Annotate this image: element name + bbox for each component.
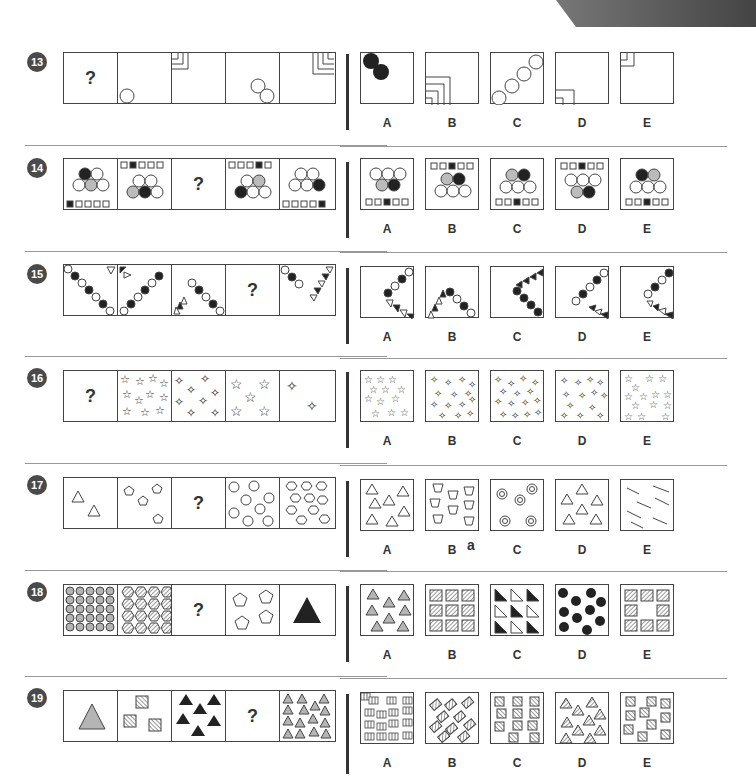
option-label: B [425, 756, 479, 770]
sequence-cell-missing: ? [172, 478, 226, 528]
svg-text:☆: ☆ [258, 403, 271, 419]
divider-line [25, 356, 387, 357]
option-b[interactable]: B [425, 584, 490, 662]
option-d[interactable]: D [555, 692, 620, 770]
option-a[interactable]: A [360, 158, 425, 236]
divider-line [25, 145, 387, 146]
svg-text:☆: ☆ [387, 407, 396, 418]
option-label: D [555, 222, 609, 236]
option-a[interactable]: ☆☆☆☆☆☆☆☆☆☆☆☆A [360, 370, 425, 448]
sequence-cell [64, 265, 118, 315]
option-b[interactable]: B [425, 479, 490, 557]
option-b[interactable]: B [425, 266, 490, 344]
divider-line [340, 358, 727, 359]
sequence-cell [64, 585, 118, 635]
sequence-cell [226, 159, 280, 209]
option-label: E [620, 543, 674, 557]
svg-text:✧: ✧ [186, 383, 196, 397]
svg-text:✧: ✧ [430, 399, 438, 410]
option-label: A [360, 756, 414, 770]
svg-text:☆: ☆ [159, 377, 169, 389]
option-e[interactable]: ☆☆☆☆☆☆☆☆☆☆☆☆☆☆E [620, 370, 685, 448]
svg-text:☆: ☆ [645, 373, 654, 384]
svg-text:☆: ☆ [637, 411, 646, 422]
option-label: C [490, 543, 544, 557]
question-mark: ? [193, 493, 204, 514]
svg-text:☆: ☆ [364, 393, 373, 404]
svg-text:☆: ☆ [122, 388, 132, 400]
question-mark: ? [247, 280, 258, 301]
divider-bar [346, 54, 349, 130]
sequence-cell [64, 691, 118, 741]
sequence-cell [280, 478, 334, 528]
option-e[interactable]: E [620, 52, 685, 130]
option-c[interactable]: C [490, 52, 555, 130]
option-c[interactable]: C [490, 692, 555, 770]
option-a[interactable]: A [360, 479, 425, 557]
svg-text:☆: ☆ [244, 389, 257, 405]
option-d[interactable]: D [555, 584, 620, 662]
option-c[interactable]: C [490, 584, 555, 662]
option-b[interactable]: B [425, 692, 490, 770]
divider-line [340, 571, 727, 572]
svg-text:✧: ✧ [574, 377, 582, 388]
sequence-cell [118, 159, 172, 209]
option-c[interactable]: C [490, 266, 555, 344]
svg-text:✧: ✧ [560, 375, 568, 386]
svg-text:☆: ☆ [624, 411, 633, 422]
question-mark: ? [85, 386, 96, 407]
option-label: D [555, 434, 609, 448]
option-e[interactable]: E [620, 479, 685, 557]
svg-text:✧: ✧ [454, 410, 462, 421]
svg-text:☆: ☆ [663, 400, 672, 411]
svg-text:☆: ☆ [400, 407, 409, 418]
svg-text:☆: ☆ [631, 400, 640, 411]
svg-text:☆: ☆ [391, 393, 400, 404]
option-d[interactable]: D [555, 52, 620, 130]
option-d[interactable]: D [555, 266, 620, 344]
option-b[interactable]: B [425, 52, 490, 130]
option-label: B [425, 648, 479, 662]
option-label: C [490, 434, 544, 448]
svg-text:✧: ✧ [533, 395, 541, 406]
sequence-cell [64, 478, 118, 528]
svg-text:✧: ✧ [596, 410, 604, 421]
divider-line [25, 463, 387, 464]
svg-text:☆: ☆ [159, 391, 169, 403]
option-e[interactable]: E [620, 266, 685, 344]
option-b[interactable]: ✧✧✧✧✧✧✧✧✧✧✧✧✧✧B [425, 370, 490, 448]
option-e[interactable]: E [620, 692, 685, 770]
divider-bar [346, 268, 349, 344]
option-c[interactable]: C [490, 479, 555, 557]
sequence-cell-missing: ? [172, 585, 226, 635]
option-e[interactable]: E [620, 158, 685, 236]
question-mark: ? [193, 600, 204, 621]
sequence-strip: ? [63, 690, 336, 742]
svg-text:✧: ✧ [562, 389, 570, 400]
sequence-cell [226, 478, 280, 528]
option-c[interactable]: ✧✧✧✧✧✧✧✧✧✧✧✧✧✧✧C [490, 370, 555, 448]
option-a[interactable]: A [360, 692, 425, 770]
svg-text:✧: ✧ [590, 387, 598, 398]
svg-text:✧: ✧ [588, 402, 596, 413]
option-label: C [490, 330, 544, 344]
option-d[interactable]: D [555, 158, 620, 236]
svg-text:✧: ✧ [534, 407, 542, 418]
option-a[interactable]: A [360, 52, 425, 130]
option-a[interactable]: A [360, 266, 425, 344]
question-number-badge: 14 [27, 158, 47, 178]
option-a[interactable]: A [360, 584, 425, 662]
option-label: B [425, 116, 479, 130]
option-c[interactable]: C [490, 158, 555, 236]
sequence-cell [280, 159, 334, 209]
option-label: C [490, 756, 544, 770]
option-d[interactable]: D [555, 479, 620, 557]
option-e[interactable]: E [620, 584, 685, 662]
option-b[interactable]: B [425, 158, 490, 236]
divider-line [25, 251, 387, 252]
svg-text:☆: ☆ [649, 399, 658, 410]
svg-text:✧: ✧ [210, 386, 220, 400]
sequence-cell [280, 53, 334, 103]
option-d[interactable]: ✧✧✧✧✧✧✧✧✧✧✧✧✧D [555, 370, 620, 448]
svg-text:✧: ✧ [174, 374, 184, 388]
